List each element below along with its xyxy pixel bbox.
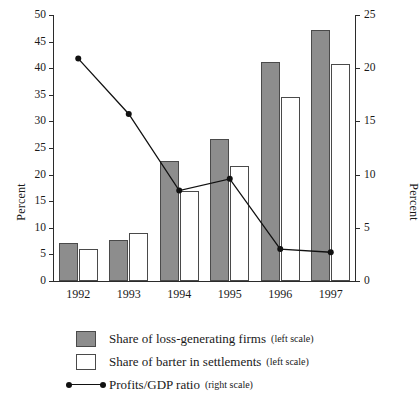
left-tick-label: 10 bbox=[35, 222, 47, 234]
legend-scale-note: (left scale) bbox=[271, 333, 313, 344]
left-tick-label: 0 bbox=[40, 275, 46, 287]
data-point-1996 bbox=[277, 246, 283, 252]
left-tick-label: 20 bbox=[35, 169, 47, 181]
right-tick-label: 0 bbox=[364, 275, 370, 287]
legend-item-loss-generating-firms: Share of loss-generating firms (left sca… bbox=[63, 327, 413, 350]
right-axis-title: Percent bbox=[406, 183, 419, 220]
profits-gdp-polyline bbox=[78, 59, 331, 253]
right-tick-label: 20 bbox=[364, 62, 376, 74]
legend-item-barter-in-settlements: Share of barter in settlements (left sca… bbox=[63, 350, 413, 373]
left-tick-label: 45 bbox=[35, 36, 47, 48]
legend-scale-note: (right scale) bbox=[205, 379, 253, 390]
grey-swatch-icon bbox=[63, 331, 109, 347]
left-axis-title: Percent bbox=[14, 183, 29, 220]
legend-label: Share of barter in settlements bbox=[109, 354, 261, 370]
line-marker-icon bbox=[63, 380, 109, 389]
right-tick-label: 10 bbox=[364, 169, 376, 181]
legend-label: Share of loss-generating firms bbox=[109, 331, 266, 347]
legend-label: Profits/GDP ratio bbox=[109, 377, 200, 393]
x-tick-label-1992: 1992 bbox=[53, 287, 104, 302]
white-swatch-icon bbox=[63, 354, 109, 370]
right-tick-label: 15 bbox=[364, 115, 376, 127]
chart-legend: Share of loss-generating firms (left sca… bbox=[63, 327, 413, 396]
x-tick-label-1997: 1997 bbox=[306, 287, 357, 302]
data-point-1994 bbox=[176, 188, 182, 194]
data-point-1992 bbox=[75, 56, 81, 62]
profits-gdp-line-series bbox=[53, 15, 356, 282]
legend-scale-note: (left scale) bbox=[266, 356, 308, 367]
x-tick-label-1996: 1996 bbox=[255, 287, 306, 302]
left-tick-label: 40 bbox=[35, 62, 47, 74]
left-tick-label: 5 bbox=[40, 248, 46, 260]
chart-figure: Percent Percent 05101520253035404550 051… bbox=[0, 0, 419, 403]
left-tick-label: 30 bbox=[35, 115, 47, 127]
right-tick-label: 25 bbox=[364, 9, 376, 21]
left-tick-label: 25 bbox=[35, 142, 47, 154]
x-tick-label-1994: 1994 bbox=[154, 287, 205, 302]
data-point-1997 bbox=[328, 249, 334, 255]
x-tick-label-1995: 1995 bbox=[205, 287, 256, 302]
left-tick-label: 35 bbox=[35, 89, 47, 101]
data-point-1995 bbox=[227, 176, 233, 182]
left-tick-label: 15 bbox=[35, 195, 47, 207]
left-tick-label: 50 bbox=[35, 9, 47, 21]
legend-item-profits-gdp-ratio: Profits/GDP ratio (right scale) bbox=[63, 373, 413, 396]
data-point-1993 bbox=[126, 111, 132, 117]
plot-area: 05101520253035404550 0510152025 19921993… bbox=[53, 15, 356, 281]
x-tick-label-1993: 1993 bbox=[104, 287, 155, 302]
right-tick-label: 5 bbox=[364, 222, 370, 234]
